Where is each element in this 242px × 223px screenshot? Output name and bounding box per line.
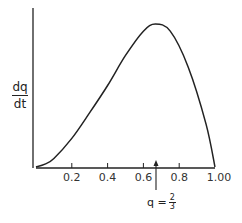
x-tick-label: 1.00	[207, 171, 232, 184]
x-tick-label: 0.8	[170, 171, 188, 184]
fraction: 2 3	[169, 194, 176, 211]
annotation-arrow	[154, 160, 159, 190]
x-tick-label: 0.6	[135, 171, 153, 184]
x-tick-label: 0.2	[63, 171, 81, 184]
chart-canvas	[0, 0, 242, 223]
y-axis-label: dq dt	[12, 80, 28, 111]
x-tick-label: 0.4	[99, 171, 117, 184]
annotation-label: q = 2 3	[147, 194, 176, 211]
x-ticks	[72, 163, 179, 168]
dqdt-curve	[36, 24, 215, 167]
